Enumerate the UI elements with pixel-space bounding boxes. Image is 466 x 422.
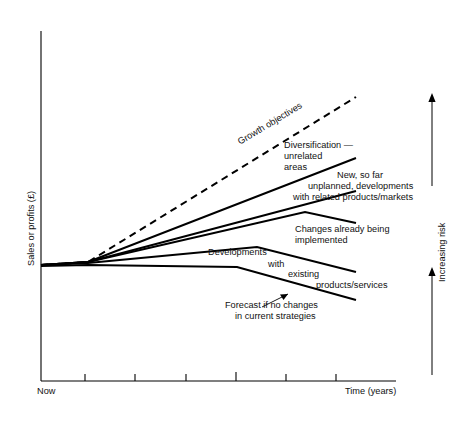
x-axis-label: Time (years)	[345, 386, 396, 397]
annotation-forecast-line1: Forecast if no changes	[225, 300, 318, 311]
chart-figure: Sales or profits (£) Time (years) Now In…	[0, 0, 466, 422]
x-axis-origin-label: Now	[37, 386, 55, 397]
annotation-new-unplanned-line1: New, so far	[337, 170, 383, 181]
increasing-risk-label: Increasing risk	[437, 223, 448, 282]
annotation-developments-line2: with	[268, 259, 284, 270]
annotation-developments-line4: products/services	[316, 280, 388, 291]
annotation-new-unplanned-line2: unplanned, developments	[308, 181, 413, 192]
increasing-risk-arrows	[428, 93, 435, 375]
annotation-changes-implemented-line2: implemented	[295, 235, 348, 246]
annotation-diversification-line1: Diversification —	[284, 140, 353, 151]
annotation-developments-line3: existing	[288, 269, 319, 280]
annotation-new-unplanned-line3: with related products/markets	[293, 192, 413, 203]
chart-canvas	[0, 0, 466, 422]
series-diversification	[41, 158, 356, 265]
y-axis-label: Sales or profits (£)	[26, 191, 37, 266]
annotation-diversification-line2: unrelated	[284, 151, 322, 162]
annotation-forecast-line2: in current strategies	[235, 311, 316, 322]
annotation-changes-implemented-line1: Changes already being	[295, 224, 390, 235]
annotation-diversification-line3: areas	[284, 162, 307, 173]
annotation-developments-line1: Developments	[208, 247, 267, 258]
x-axis-ticks	[85, 372, 336, 381]
